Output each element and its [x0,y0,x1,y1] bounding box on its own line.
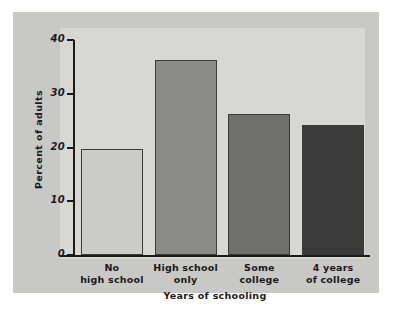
y-tick-label: 40 [31,33,65,44]
y-tick-mark [67,147,74,149]
y-tick-mark [67,200,74,202]
x-tick-label-line: college [223,274,297,286]
y-tick-mark [67,254,74,256]
x-tick-label-line: Some [223,262,297,274]
bar [81,149,143,255]
x-tick-label-line: No [75,262,149,274]
x-tick-label-line: 4 years [296,262,370,274]
x-tick-label: Somecollege [223,262,297,286]
x-tick-label: Nohigh school [75,262,149,286]
bar [228,114,290,255]
x-tick-label-line: High school [149,262,223,274]
y-tick-label-wrapper: 40 [27,33,65,45]
y-tick-label: 0 [31,248,65,259]
x-tick-label-line: of college [296,274,370,286]
x-tick-label: High schoolonly [149,262,223,286]
y-tick-mark [67,93,74,95]
x-tick-label-line: high school [75,274,149,286]
x-tick-label-line: only [149,274,223,286]
y-tick-mark [67,39,74,41]
y-tick-label-wrapper: 0 [27,248,65,260]
x-tick-label: 4 yearsof college [296,262,370,286]
bar [155,60,217,255]
x-axis-line [60,255,370,257]
y-axis-title: Percent of adults [33,65,44,215]
bar [302,125,364,255]
figure-panel: 010203040 Percent of adults Nohigh schoo… [13,12,379,293]
x-axis-title: Years of schooling [60,290,370,301]
